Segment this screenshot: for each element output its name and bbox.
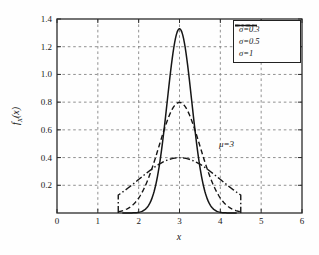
legend-label: σ=0.5 [239, 37, 260, 46]
ylabel-argument: (x) [10, 107, 21, 118]
x-axis-label: x [177, 232, 181, 242]
ylabel-function-symbol: f [10, 122, 21, 125]
y-tick-label: 0.4 [41, 153, 53, 163]
x-tick-label: 2 [136, 216, 141, 226]
ylabel-subscript: X [16, 118, 24, 122]
gaussian-pdf-figure: 01234560.20.40.60.81.01.21.4 σ=0.3σ=0.5σ… [0, 0, 319, 255]
x-tick-label: 6 [300, 216, 305, 226]
legend-label: σ=1 [239, 49, 253, 58]
mu-annotation: μ=3 [219, 139, 234, 149]
y-tick-label: 1.0 [41, 69, 53, 79]
y-tick-label: 0.8 [41, 97, 53, 107]
legend: σ=0.3σ=0.5σ=1 [233, 20, 301, 63]
y-tick-label: 1.2 [41, 42, 52, 52]
y-axis-label: fX(x) [11, 107, 25, 125]
y-tick-label: 0.6 [41, 125, 53, 135]
legend-item: σ=0.5 [239, 35, 295, 47]
legend-line-sample-dash-dot [234, 21, 258, 30]
x-tick-label: 5 [259, 216, 264, 226]
x-tick-label: 3 [177, 216, 182, 226]
x-tick-label: 1 [96, 216, 101, 226]
x-tick-label: 4 [218, 216, 223, 226]
y-tick-label: 1.4 [41, 14, 53, 24]
x-tick-label: 0 [55, 216, 60, 226]
y-tick-label: 0.2 [41, 180, 52, 190]
legend-item: σ=1 [239, 48, 295, 60]
